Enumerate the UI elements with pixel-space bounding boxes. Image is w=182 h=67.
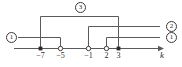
series-label-1-right-text: 1: [170, 34, 174, 41]
interval-diagram: −7 −5 −1 2 3 k 3 2 1 1: [0, 0, 182, 67]
series-label-3-top-text: 3: [79, 4, 83, 11]
series-label-1-left-text: 1: [10, 34, 14, 41]
segment-1-right: [107, 38, 161, 49]
tick-label-minus1: −1: [84, 52, 93, 60]
series-label-2-right-text: 2: [170, 23, 174, 30]
series-label-2-right: 2: [166, 21, 177, 32]
tick-label-2: 2: [105, 52, 109, 60]
series-label-1-left: 1: [6, 32, 17, 43]
axis-name-label: k: [160, 51, 164, 60]
tick-label-3: 3: [117, 52, 121, 60]
marker-filled-3: [117, 47, 121, 51]
series-label-3-top: 3: [75, 2, 86, 13]
series-label-1-right: 1: [166, 32, 177, 43]
tick-label-minus7: −7: [36, 52, 45, 60]
marker-filled-minus7: [39, 47, 43, 51]
tick-label-minus5: −5: [56, 52, 65, 60]
